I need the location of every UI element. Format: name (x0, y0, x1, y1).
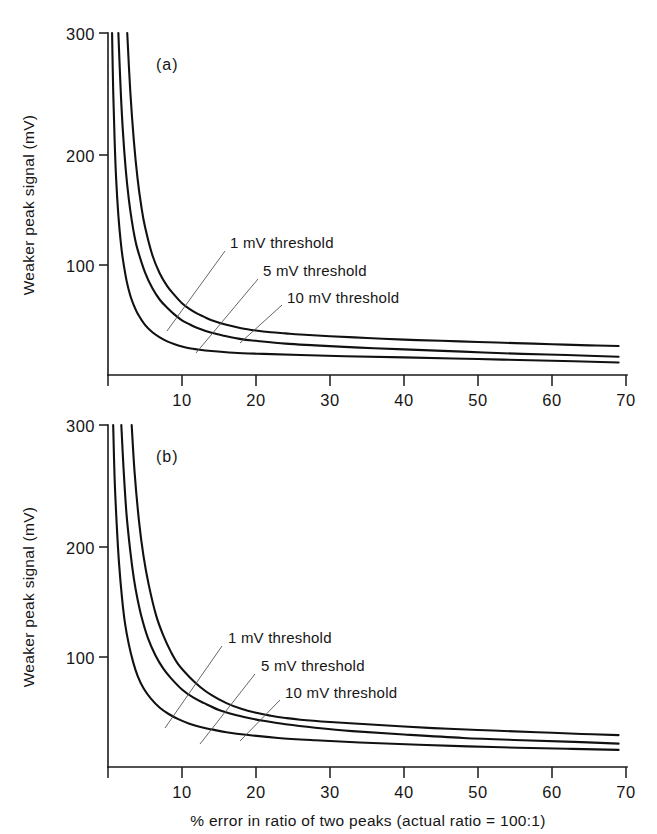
x-axis-title-b: % error in ratio of two peaks (actual ra… (190, 812, 545, 829)
chart-panel-a: 300 200 100 10 20 30 40 50 60 70 Weaker … (0, 0, 657, 418)
y-ticklabel-200-b: 200 (66, 539, 95, 557)
x-ticklabel-50-b: 50 (468, 783, 487, 801)
y-ticklabel-300-a: 300 (66, 25, 95, 43)
curve-5mv-a (118, 33, 618, 357)
x-ticklabel-10-b: 10 (172, 783, 191, 801)
y-ticklabel-300-b: 300 (66, 417, 95, 435)
curve-1mv-a (112, 33, 619, 362)
y-axis-title-a: Weaker peak signal (mV) (20, 115, 37, 296)
panel-label-a: (a) (156, 56, 179, 73)
annotation-1mv-a: 1 mV threshold (230, 234, 334, 251)
x-ticklabel-30-b: 30 (320, 783, 339, 801)
y-ticklabel-100-b: 100 (66, 649, 95, 667)
annotation-1mv-b: 1 mV threshold (228, 629, 332, 646)
x-ticklabel-20-a: 20 (246, 391, 265, 409)
x-ticklabel-10-a: 10 (172, 391, 191, 409)
annotation-10mv-b: 10 mV threshold (285, 684, 397, 701)
x-ticklabel-20-b: 20 (246, 783, 265, 801)
x-ticklabel-50-a: 50 (468, 391, 487, 409)
x-ticklabel-60-b: 60 (542, 783, 561, 801)
annotation-5mv-a: 5 mV threshold (263, 262, 367, 279)
leader-line-5mv-a (196, 279, 258, 353)
panel-a-svg: 300 200 100 10 20 30 40 50 60 70 Weaker … (0, 0, 657, 418)
leader-line-10mv-b (240, 700, 280, 741)
panel-label-b: (b) (156, 448, 179, 465)
x-ticklabel-60-a: 60 (542, 391, 561, 409)
leader-line-10mv-a (240, 305, 282, 343)
x-ticklabel-40-a: 40 (394, 391, 413, 409)
leader-line-1mv-a (167, 251, 225, 331)
chart-panel-b: 300 200 100 10 20 30 40 50 60 70 Weaker … (0, 416, 657, 834)
x-ticklabel-30-a: 30 (320, 391, 339, 409)
x-ticklabel-70-a: 70 (616, 391, 635, 409)
panel-b-svg: 300 200 100 10 20 30 40 50 60 70 Weaker … (0, 416, 657, 834)
y-ticklabel-200-a: 200 (66, 147, 95, 165)
y-axis-title-b: Weaker peak signal (mV) (20, 507, 37, 688)
x-ticklabel-40-b: 40 (394, 783, 413, 801)
annotation-5mv-b: 5 mV threshold (261, 657, 365, 674)
y-ticklabel-100-a: 100 (66, 257, 95, 275)
curve-1mv-b (113, 425, 618, 750)
x-ticklabel-70-b: 70 (616, 783, 635, 801)
figure-container: 300 200 100 10 20 30 40 50 60 70 Weaker … (0, 0, 657, 834)
annotation-10mv-a: 10 mV threshold (287, 289, 399, 306)
